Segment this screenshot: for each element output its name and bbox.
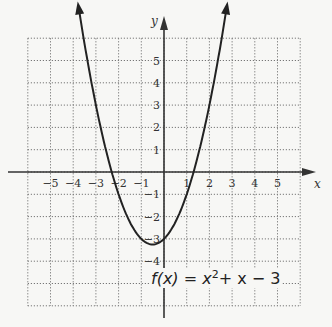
y-axis-arrow-icon <box>160 16 168 30</box>
x-axis-arrow-icon <box>302 168 316 176</box>
x-tick-label: 2 <box>206 177 213 190</box>
y-tick-label: −1 <box>144 188 160 201</box>
x-tick-label: −4 <box>65 177 81 190</box>
y-tick-label: 3 <box>153 99 160 112</box>
y-axis-label: y <box>150 14 158 28</box>
y-tick-label: −4 <box>144 255 160 268</box>
x-tick-label: 4 <box>251 177 258 190</box>
curve-arrow-icon <box>75 1 84 15</box>
function-label: f(x) = x2+ x − 3 <box>149 268 282 288</box>
y-tick-label: −2 <box>144 211 160 224</box>
y-tick-label: 5 <box>153 55 160 68</box>
x-tick-label: 3 <box>229 177 236 190</box>
x-tick-label: −5 <box>42 177 58 190</box>
y-tick-label: 2 <box>153 121 160 134</box>
y-tick-label: 4 <box>153 77 160 90</box>
x-tick-label: −3 <box>88 177 104 190</box>
curve-arrow-icon <box>221 1 230 15</box>
x-tick-label: 5 <box>274 177 281 190</box>
x-axis-label: x <box>314 177 321 191</box>
y-tick-label: 1 <box>153 144 160 157</box>
